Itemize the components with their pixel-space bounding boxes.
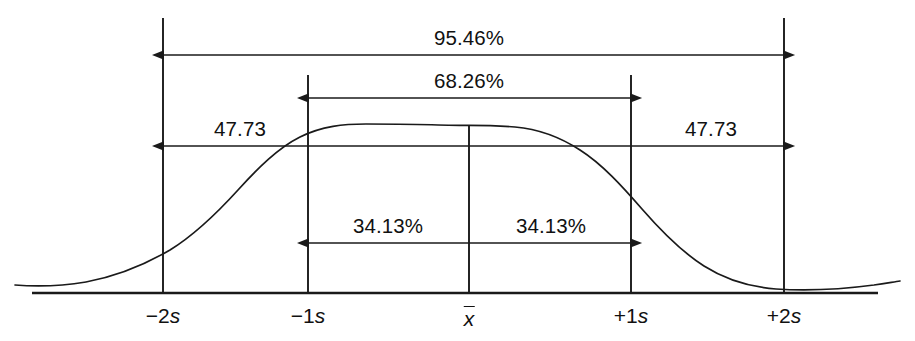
tick-sign-plus-1s: +1 bbox=[614, 304, 638, 327]
axis-tick-label-plus-1s: +1s bbox=[614, 305, 648, 326]
tick-sign-plus-2s: +2 bbox=[767, 304, 791, 327]
axis-tick-label-plus-2s: +2s bbox=[767, 305, 801, 326]
tick-sign-minus-1s: −1 bbox=[291, 304, 315, 327]
distribution-graphic bbox=[0, 0, 915, 341]
axis-tick-label-minus-1s: −1s bbox=[291, 305, 325, 326]
label-span-68: 68.26% bbox=[434, 71, 504, 92]
label-span-47-left: 47.73 bbox=[214, 119, 266, 140]
axis-tick-label-mean: x bbox=[464, 306, 475, 329]
label-span-34-left: 34.13% bbox=[353, 216, 423, 237]
tick-sign-minus-2s: −2 bbox=[146, 304, 170, 327]
sigma-gridlines bbox=[163, 18, 784, 293]
tick-symbol-minus-2s: s bbox=[170, 304, 181, 327]
tick-symbol-plus-2s: s bbox=[791, 304, 802, 327]
tick-symbol-minus-1s: s bbox=[315, 304, 326, 327]
label-span-47-right: 47.73 bbox=[685, 119, 737, 140]
label-span-95: 95.46% bbox=[434, 28, 504, 49]
tick-symbol-plus-1s: s bbox=[638, 304, 649, 327]
normal-distribution-figure: 95.46% 68.26% 47.73 47.73 34.13% 34.13% … bbox=[0, 0, 915, 341]
mean-symbol: x bbox=[464, 306, 475, 329]
gaussian-curve-path bbox=[15, 124, 900, 290]
label-span-34-right: 34.13% bbox=[516, 216, 586, 237]
axis-tick-label-minus-2s: −2s bbox=[146, 305, 180, 326]
bell-curve bbox=[15, 124, 900, 290]
